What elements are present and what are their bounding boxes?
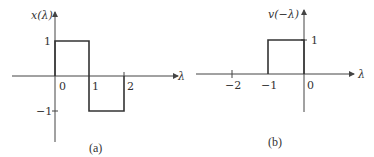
tick-label-y1-b: 1 — [311, 34, 318, 47]
caption-a: (a) — [89, 141, 102, 155]
x-label-a: λ — [177, 70, 185, 83]
y-label-b: v(−λ) — [268, 8, 299, 21]
signal-v-neg-lambda — [268, 40, 304, 74]
x-label-b: λ — [357, 68, 365, 81]
tick-label-0-b: 0 — [307, 79, 314, 92]
tick-label-neg1-b: −1 — [261, 79, 277, 92]
caption-b: (b) — [268, 135, 282, 149]
panel-a: x(λ) λ 0 1 2 1 −1 (a) — [12, 9, 185, 155]
tick-label-1-a: 1 — [92, 80, 99, 93]
y-label-a: x(λ) — [31, 9, 53, 22]
figure: x(λ) λ 0 1 2 1 −1 (a) v(−λ) λ −2 −1 0 1 … — [0, 0, 374, 157]
tick-label-y1-a: 1 — [44, 35, 51, 48]
tick-label-2-a: 2 — [127, 80, 134, 93]
tick-label-neg2-b: −2 — [225, 79, 241, 92]
panel-b: v(−λ) λ −2 −1 0 1 (b) — [196, 8, 365, 149]
tick-label-0-a: 0 — [59, 80, 66, 93]
tick-label-yneg1-a: −1 — [36, 105, 52, 118]
